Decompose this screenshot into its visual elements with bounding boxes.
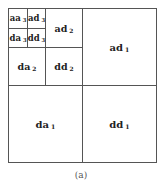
subband-level: 3 [23,17,27,23]
subband-level: 1 [125,123,129,130]
subband-ad3: ad3 [27,8,46,28]
subband-ad2: ad2 [45,8,83,48]
subband-dd3: dd3 [27,28,46,48]
subband-aa3: aa3 [8,8,28,28]
subband-label: ad [28,13,39,23]
subband-da1: da1 [8,85,83,163]
subband-label: da [9,33,20,43]
subband-da2: da2 [8,47,46,86]
subband-label: ad [55,23,68,34]
subband-da3: da3 [8,28,28,48]
subband-level: 1 [51,123,55,130]
subband-ad1: ad1 [82,8,157,86]
subband-label: dd [54,61,67,72]
subband-level: 1 [125,46,129,53]
subband-level: 3 [23,37,27,43]
subband-label: ad [110,42,123,53]
subband-label: dd [28,33,40,43]
figure-caption: (a) [0,170,162,180]
subband-dd1: dd1 [82,85,157,163]
subband-label: aa [10,13,21,23]
subband-label: da [18,61,31,72]
subband-level: 2 [70,65,74,72]
subband-label: dd [109,119,123,130]
subband-dd2: dd2 [45,47,83,86]
subband-label: da [36,119,49,130]
subband-level: 2 [69,27,73,34]
subband-level: 2 [32,65,36,72]
